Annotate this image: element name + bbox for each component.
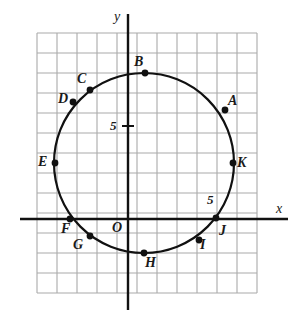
circle-curve — [54, 73, 234, 253]
point-label-E: E — [38, 155, 47, 169]
point-label-A: A — [228, 94, 237, 108]
point-label-B: B — [134, 55, 143, 69]
origin-label: O — [112, 221, 122, 235]
point-label-C: C — [77, 72, 86, 86]
point-marker-K — [230, 160, 237, 167]
point-marker-B — [142, 70, 149, 77]
y-axis-tick-label-5: 5 — [110, 119, 117, 132]
marked-points — [52, 70, 237, 257]
y-axis-label: y — [114, 10, 120, 24]
point-marker-E — [52, 160, 59, 167]
point-label-H: H — [145, 256, 156, 270]
point-label-J: J — [219, 224, 226, 238]
point-label-F: F — [61, 222, 70, 236]
point-label-I: I — [200, 238, 205, 252]
x-axis-label: x — [276, 202, 282, 216]
point-marker-C — [87, 87, 94, 94]
point-label-K: K — [237, 156, 246, 170]
point-marker-G — [87, 233, 94, 240]
figure-page: y x O 5 5 ABCDEFGHIJK — [0, 0, 305, 324]
x-axis-tick-label-5: 5 — [207, 193, 214, 206]
point-label-G: G — [73, 238, 83, 252]
point-marker-D — [70, 99, 77, 106]
point-marker-J — [213, 215, 220, 222]
point-label-D: D — [58, 92, 68, 106]
